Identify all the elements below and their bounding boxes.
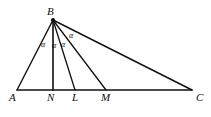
angle-label-ABN: α [41, 41, 45, 49]
segment-side-BC [53, 20, 192, 90]
angle-label-MBC: α [69, 32, 73, 40]
vertex-label-L: L [72, 92, 78, 103]
segment-group [17, 20, 192, 90]
angle-label-NBL: α [52, 42, 56, 50]
segment-cevian-BM [53, 20, 106, 90]
vertex-label-M: M [101, 92, 110, 103]
vertex-dot-B [51, 18, 55, 22]
vertex-label-N: N [47, 92, 54, 103]
vertex-label-C: C [196, 92, 203, 103]
vertex-label-A: A [9, 92, 16, 103]
segment-side-BA [17, 20, 53, 90]
geometry-figure: A B N L M C α α α α [0, 0, 211, 117]
vertex-label-B: B [47, 6, 54, 17]
angle-label-LBM: α [61, 41, 65, 49]
